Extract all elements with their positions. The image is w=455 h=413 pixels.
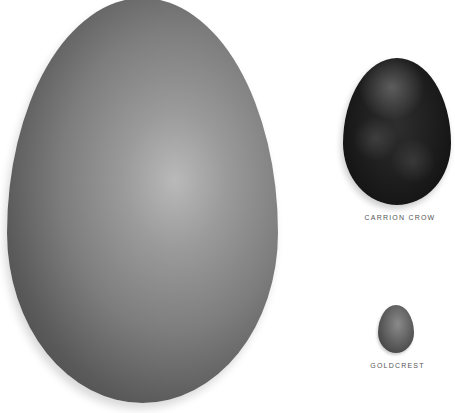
goldcrest-egg — [378, 305, 414, 353]
carrion-crow-egg — [343, 58, 451, 205]
large-egg — [7, 0, 278, 403]
goldcrest-label: GOLDCREST — [350, 362, 445, 369]
carrion-crow-label: CARRION CROW — [350, 214, 450, 221]
